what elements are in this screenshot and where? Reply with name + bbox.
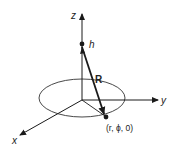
h-arrow-tip — [80, 47, 85, 54]
x-axis — [20, 100, 82, 135]
field-point-label: (r, ϕ, 0) — [106, 123, 133, 133]
r-vector-label: R — [95, 74, 103, 85]
point-field — [104, 115, 109, 120]
y-axis-label: y — [160, 95, 167, 106]
diagram-canvas: z y x h R (r, ϕ, 0) — [0, 0, 173, 156]
z-axis-label: z — [70, 10, 76, 21]
point-h — [80, 42, 85, 47]
x-axis-label: x — [11, 135, 18, 146]
coordinate-diagram: z y x h R (r, ϕ, 0) — [0, 0, 173, 156]
h-label: h — [89, 39, 95, 50]
